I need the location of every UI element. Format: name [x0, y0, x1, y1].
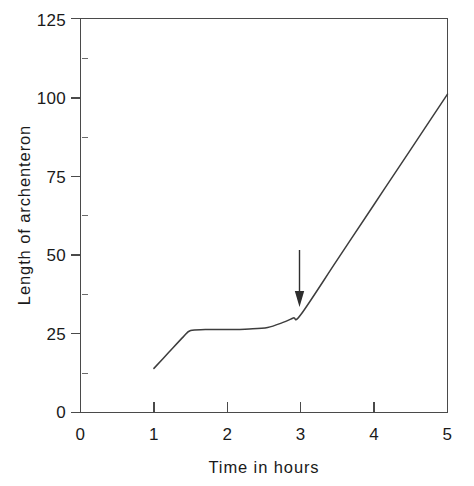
y-axis-title: Length of archenteron	[15, 125, 33, 305]
inflection-annotation-arrow	[295, 250, 304, 307]
y-tick-label-50: 50	[46, 246, 66, 265]
x-tick-label-5: 5	[443, 425, 453, 444]
y-axis-minor-ticks	[82, 59, 88, 374]
x-tick-label-1: 1	[149, 425, 159, 444]
x-tick-label-0: 0	[76, 425, 86, 444]
x-axis-tick-labels: 0 1 2 3 4 5	[76, 425, 453, 444]
x-axis-major-ticks	[154, 402, 374, 413]
archenteron-length-line-chart: 0 25 50 75 100 125 0 1 2 3 4 5 Time in h…	[0, 0, 474, 486]
x-tick-label-2: 2	[222, 425, 232, 444]
arrow-head-icon	[295, 291, 304, 307]
y-tick-label-125: 125	[37, 11, 66, 30]
plot-frame	[81, 19, 448, 413]
y-tick-label-0: 0	[56, 403, 66, 422]
y-tick-label-75: 75	[46, 168, 66, 187]
x-tick-label-3: 3	[296, 425, 306, 444]
x-tick-label-4: 4	[369, 425, 379, 444]
y-axis-major-ticks	[71, 19, 81, 413]
x-axis-title: Time in hours	[208, 458, 319, 476]
figure-root: 0 25 50 75 100 125 0 1 2 3 4 5 Time in h…	[0, 0, 474, 486]
archenteron-length-curve	[154, 94, 448, 368]
y-tick-label-100: 100	[37, 89, 66, 108]
y-tick-label-25: 25	[46, 325, 66, 344]
y-axis-tick-labels: 0 25 50 75 100 125	[37, 11, 66, 423]
